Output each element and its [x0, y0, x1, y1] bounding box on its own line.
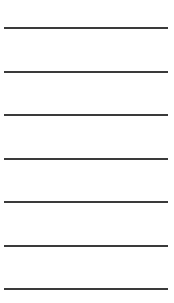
ruled-writing-area [0, 0, 174, 303]
ruled-line-4 [4, 158, 168, 160]
ruled-line-5 [4, 201, 168, 203]
ruled-line-2 [4, 71, 168, 73]
ruled-line-7 [4, 288, 168, 290]
ruled-line-1 [4, 27, 168, 29]
ruled-line-6 [4, 245, 168, 247]
ruled-line-3 [4, 114, 168, 116]
